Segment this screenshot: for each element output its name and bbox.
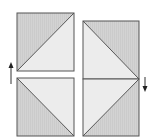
up-arrow-icon	[9, 62, 14, 84]
tile-top-right	[83, 21, 139, 79]
down-arrow-icon	[143, 77, 148, 92]
tile-bottom-right	[83, 79, 139, 136]
tile-bottom-left	[17, 78, 74, 136]
tile-diagram	[0, 0, 155, 140]
tile-top-left	[17, 13, 74, 71]
